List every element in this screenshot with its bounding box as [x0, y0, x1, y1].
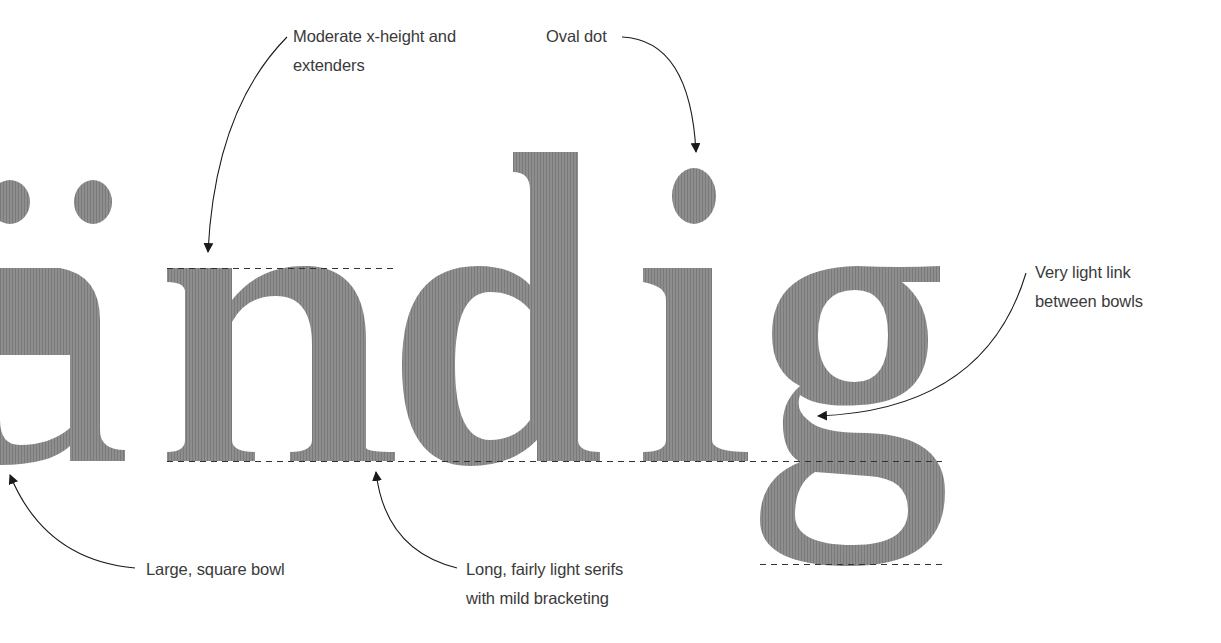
annotation-oval-dot: Oval dot [546, 22, 607, 51]
arrow-bowl [10, 475, 135, 568]
annotation-line: Oval dot [546, 22, 607, 51]
annotation-line: Large, square bowl [146, 555, 285, 584]
annotation-x-height: Moderate x-height and extenders [293, 22, 456, 80]
annotation-line: Moderate x-height and [293, 22, 456, 51]
annotation-line: Very light link [1035, 258, 1143, 287]
specimen-artwork [0, 0, 1221, 643]
glyph-i [643, 168, 748, 461]
annotation-line: with mild bracketing [466, 584, 623, 613]
annotation-line: extenders [293, 51, 456, 80]
glyph-d [402, 152, 600, 466]
annotation-bowl: Large, square bowl [146, 555, 285, 584]
glyph-g [760, 266, 945, 566]
leader-arrows [10, 37, 1026, 568]
annotation-line: Long, fairly light serifs [466, 555, 623, 584]
arrow-oval-dot [622, 37, 696, 152]
arrow-x-height [208, 37, 287, 252]
glyph-group [0, 152, 945, 566]
annotation-serifs: Long, fairly light serifs with mild brac… [466, 555, 623, 613]
annotation-line: between bowls [1035, 287, 1143, 316]
glyph-a-umlaut [0, 180, 125, 465]
typeface-specimen-diagram: Moderate x-height and extenders Oval dot… [0, 0, 1221, 643]
glyph-n [167, 266, 395, 461]
annotation-link: Very light link between bowls [1035, 258, 1143, 316]
arrow-serifs [376, 472, 457, 568]
